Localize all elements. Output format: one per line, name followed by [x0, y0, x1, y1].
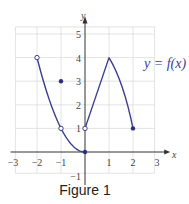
svg-text:3: 3: [76, 76, 81, 87]
svg-text:−1: −1: [56, 157, 67, 168]
y-axis-label: y: [80, 10, 86, 21]
closed-point: [131, 126, 135, 130]
figure-caption: Figure 1: [0, 182, 170, 198]
open-point: [59, 126, 63, 130]
svg-text:5: 5: [76, 29, 81, 40]
svg-text:4: 4: [76, 53, 81, 64]
tick-labels: −3−2−1123−112345: [8, 29, 160, 182]
svg-text:2: 2: [76, 100, 81, 111]
svg-text:−1: −1: [70, 171, 81, 182]
function-label: y = f(x): [142, 56, 186, 72]
svg-text:1: 1: [76, 123, 81, 134]
svg-text:−2: −2: [32, 157, 43, 168]
svg-text:−3: −3: [8, 157, 19, 168]
closed-point: [59, 79, 63, 83]
svg-text:3: 3: [155, 157, 160, 168]
function-graph: −3−2−1123−112345 y = f(x) x y: [0, 0, 189, 204]
svg-text:1: 1: [107, 157, 112, 168]
closed-point: [83, 150, 87, 154]
svg-text:2: 2: [131, 157, 136, 168]
open-point: [83, 126, 87, 130]
x-axis-label: x: [171, 149, 177, 160]
open-point: [35, 55, 39, 59]
